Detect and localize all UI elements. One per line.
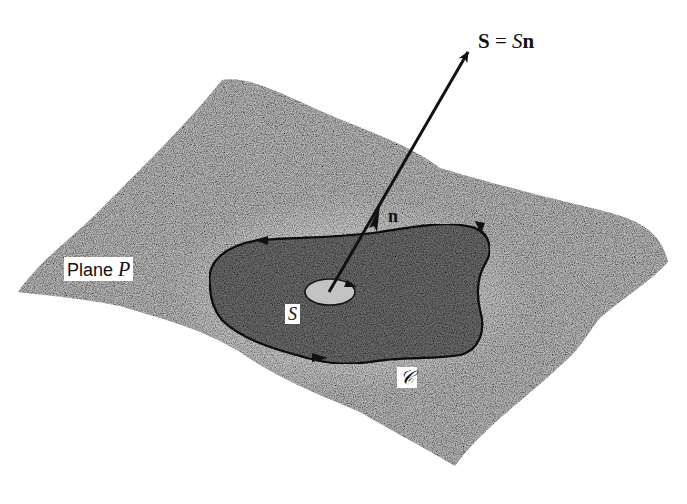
unit-vector-n: n	[523, 29, 535, 53]
plane-symbol: P	[118, 258, 130, 280]
scalar-S: S	[512, 29, 523, 53]
normal-label: n	[388, 207, 398, 225]
plane-label-text: Plane	[67, 260, 118, 280]
vector-equation: S = Sn	[478, 31, 534, 52]
plane-label: Plane P	[64, 257, 133, 281]
equals-sign: =	[490, 29, 512, 53]
surface-label: S	[285, 304, 300, 324]
vector-S: S	[478, 29, 490, 53]
vector-area-diagram	[0, 0, 687, 504]
curve-label: 𝒞	[397, 367, 417, 388]
